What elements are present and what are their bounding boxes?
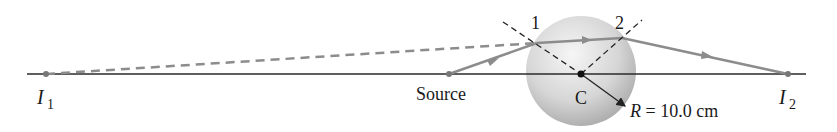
radius-value: = 10.0 cm xyxy=(641,101,718,121)
label-point1: 1 xyxy=(531,13,540,33)
image1-dot xyxy=(43,71,49,77)
label-image2-sub: 2 xyxy=(789,97,796,112)
label-source: Source xyxy=(416,84,466,104)
source-dot xyxy=(446,71,452,77)
label-image1: I xyxy=(36,86,45,108)
label-point2: 2 xyxy=(615,13,624,33)
label-radius: R = 10.0 cm xyxy=(629,101,718,121)
label-image2: I xyxy=(778,86,787,108)
refraction-diagram: I 1 Source C 1 2 R = 10.0 cm I 2 xyxy=(0,0,837,132)
label-center: C xyxy=(575,88,587,108)
center-dot xyxy=(578,71,585,78)
radius-var: R xyxy=(629,101,641,121)
label-image1-sub: 1 xyxy=(47,97,54,112)
image2-dot xyxy=(785,71,791,77)
ray-source-to-1 xyxy=(449,43,537,74)
